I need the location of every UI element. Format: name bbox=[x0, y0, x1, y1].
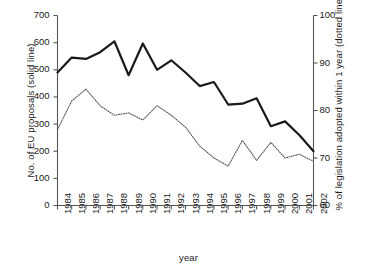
series-line-1 bbox=[58, 89, 314, 166]
plot-area bbox=[0, 0, 377, 271]
series-line-0 bbox=[58, 41, 314, 151]
data-series-group bbox=[58, 41, 314, 166]
chart-container: No. of EU proposals (solid line) % of le… bbox=[0, 0, 377, 271]
axes-lines bbox=[54, 16, 318, 210]
